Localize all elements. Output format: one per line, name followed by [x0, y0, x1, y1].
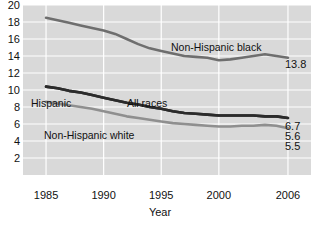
y-axis-tick-label: 6 [0, 119, 20, 130]
x-axis-tick-label: 1990 [84, 190, 124, 201]
y-axis-tick-label: 14 [0, 51, 20, 62]
x-axis-tick-label: 2000 [199, 190, 239, 201]
series-end-value-label: 5.5 [285, 141, 300, 152]
series-annotation-label: Non-Hispanic white [44, 130, 134, 141]
x-axis-tick-label: 1995 [141, 190, 181, 201]
y-axis-tick-label: 8 [0, 102, 20, 113]
x-axis-tick-label: 2006 [268, 190, 308, 201]
y-axis-tick-label: 2 [0, 153, 20, 164]
y-axis-tick-label: 12 [0, 68, 20, 79]
series-annotation-label: Hispanic [31, 98, 71, 109]
y-axis-tick-label: 18 [0, 17, 20, 28]
y-axis-tick-label: 16 [0, 34, 20, 45]
x-axis-title: Year [130, 207, 190, 218]
infant-mortality-line-chart: 2468101214161820 19851990199520002006 No… [0, 0, 319, 227]
y-axis-tick-label: 4 [0, 136, 20, 147]
y-axis-tick-label: 20 [0, 0, 20, 11]
series-annotation-label: All races [127, 98, 167, 109]
x-axis-tick-label: 1985 [26, 190, 66, 201]
series-end-value-label: 13.8 [285, 59, 306, 70]
y-axis-tick-label: 10 [0, 85, 20, 96]
series-annotation-label: Non-Hispanic black [171, 42, 261, 53]
